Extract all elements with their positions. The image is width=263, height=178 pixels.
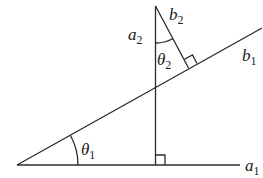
label-theta2: θ2 <box>157 50 171 72</box>
label-a2: a2 <box>128 25 143 47</box>
right-angle-marker-bottom <box>156 155 166 165</box>
line-b1 <box>17 28 262 165</box>
diagram-canvas: a2 b2 θ2 b1 θ1 a1 <box>0 0 263 178</box>
label-a1: a1 <box>245 156 260 178</box>
label-b2: b2 <box>169 5 184 27</box>
label-theta1: θ1 <box>81 140 95 162</box>
angle-arc-theta2 <box>156 39 173 43</box>
angle-arc-theta1 <box>71 136 79 166</box>
label-b1: b1 <box>242 46 257 68</box>
